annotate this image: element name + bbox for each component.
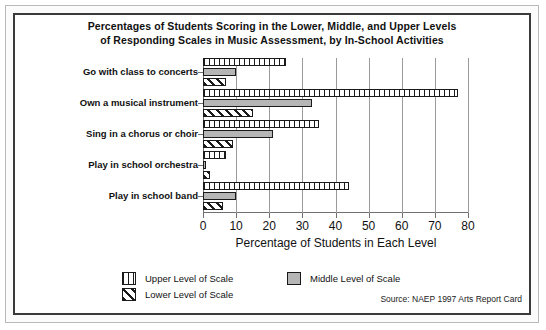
y-axis-label-1: Own a musical instrument xyxy=(23,97,198,108)
legend-item-middle: Middle Level of Scale xyxy=(287,272,400,285)
x-tick-40 xyxy=(336,213,337,218)
bar-group xyxy=(203,58,468,89)
source-note: Source: NAEP 1997 Arts Report Card xyxy=(380,294,522,304)
bar-lower xyxy=(203,171,210,179)
chart-title-line1: Percentages of Students Scoring in the L… xyxy=(88,20,457,32)
bar-group xyxy=(203,151,468,182)
y-axis-label-2: Sing in a chorus or choir xyxy=(23,128,198,139)
legend-label-lower: Lower Level of Scale xyxy=(145,289,233,300)
x-tick-label-10: 10 xyxy=(229,219,242,233)
x-tick-30 xyxy=(302,213,303,218)
y-axis-category-labels: Go with class to concertsOwn a musical i… xyxy=(22,58,198,213)
bar-lower xyxy=(203,78,226,86)
x-tick-label-50: 50 xyxy=(362,219,375,233)
bar-middle xyxy=(203,99,312,107)
x-tick-70 xyxy=(435,213,436,218)
bar-middle xyxy=(203,161,206,169)
bar-middle xyxy=(203,68,236,76)
x-tick-label-60: 60 xyxy=(395,219,408,233)
x-tick-10 xyxy=(236,213,237,218)
x-tick-label-80: 80 xyxy=(461,219,474,233)
legend-item-upper: Upper Level of Scale xyxy=(122,272,233,285)
x-tick-label-30: 30 xyxy=(296,219,309,233)
x-axis-title: Percentage of Students in Each Level xyxy=(203,236,469,250)
legend-swatch-upper-icon xyxy=(122,272,136,285)
y-axis-label-0: Go with class to concerts xyxy=(23,66,198,77)
legend-label-middle: Middle Level of Scale xyxy=(310,273,400,284)
x-tick-label-70: 70 xyxy=(428,219,441,233)
x-tick-50 xyxy=(369,213,370,218)
x-tick-label-40: 40 xyxy=(329,219,342,233)
bar-group xyxy=(203,89,468,120)
x-tick-80 xyxy=(468,213,469,218)
x-tick-label-0: 0 xyxy=(200,219,207,233)
bar-middle xyxy=(203,192,236,200)
x-tick-0 xyxy=(203,213,204,218)
bar-middle xyxy=(203,130,273,138)
bar-upper xyxy=(203,120,319,128)
legend-label-upper: Upper Level of Scale xyxy=(145,273,233,284)
legend-item-lower: Lower Level of Scale xyxy=(122,288,233,301)
bar-upper xyxy=(203,89,458,97)
x-tick-60 xyxy=(402,213,403,218)
chart-title: Percentages of Students Scoring in the L… xyxy=(13,19,531,47)
bar-lower xyxy=(203,202,223,210)
legend-swatch-middle-icon xyxy=(287,272,301,285)
gridline-x-80 xyxy=(468,58,469,213)
bar-lower xyxy=(203,109,253,117)
bar-upper xyxy=(203,182,349,190)
bar-upper xyxy=(203,58,286,66)
bar-upper xyxy=(203,151,226,159)
x-tick-20 xyxy=(269,213,270,218)
x-tick-label-20: 20 xyxy=(263,219,276,233)
x-axis-tick-labels: 01020304050607080 xyxy=(203,219,469,235)
y-axis-label-3: Play in school orchestra xyxy=(23,159,198,170)
plot-area xyxy=(203,58,468,213)
chart-legend: Upper Level of Scale Lower Level of Scal… xyxy=(122,272,422,304)
chart-figure: Percentages of Students Scoring in the L… xyxy=(0,0,546,330)
legend-swatch-lower-icon xyxy=(122,288,136,301)
bar-lower xyxy=(203,140,233,148)
bar-group xyxy=(203,182,468,213)
y-axis-label-4: Play in school band xyxy=(23,190,198,201)
bar-group xyxy=(203,120,468,151)
chart-title-line2: of Responding Scales in Music Assessment… xyxy=(13,33,531,47)
